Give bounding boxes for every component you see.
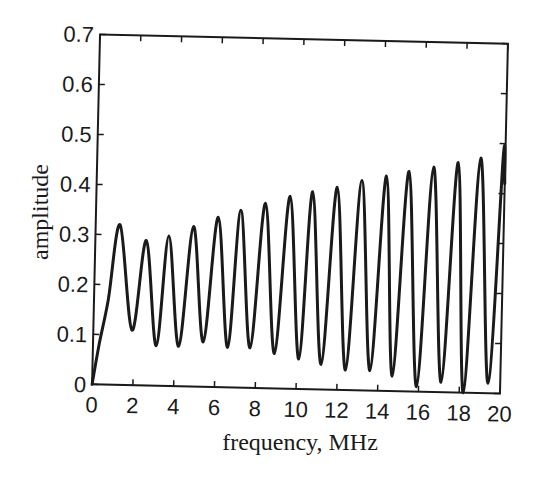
y-tick-label: 0.5	[61, 122, 92, 148]
x-tick-labels: 02468101214161820	[85, 392, 512, 427]
x-tick-label: 2	[126, 393, 139, 418]
x-tick-label: 8	[248, 396, 261, 421]
plot-group: 00.10.20.30.40.50.60.7 02468101214161820	[55, 22, 521, 427]
amplitude-frequency-chart: 00.10.20.30.40.50.60.7 02468101214161820…	[0, 0, 545, 488]
x-tick-label: 12	[324, 398, 349, 424]
x-tick-label: 6	[208, 395, 221, 420]
y-tick-labels: 00.10.20.30.40.50.60.7	[55, 22, 94, 398]
y-tick-label: 0.1	[56, 322, 87, 348]
x-axis-label: frequency, MHz	[222, 429, 378, 455]
y-axis-label: amplitude	[27, 164, 53, 260]
y-tick-label: 0.3	[59, 222, 90, 248]
x-tick-label: 4	[167, 394, 180, 419]
y-tick-label: 0.4	[60, 172, 91, 198]
y-tick-label: 0.2	[57, 272, 88, 298]
x-tick-label: 10	[283, 397, 308, 423]
x-tick-label: 18	[446, 400, 471, 426]
x-tick-label: 14	[365, 399, 390, 425]
x-tick-label: 16	[405, 399, 430, 425]
y-tick-label: 0	[74, 372, 87, 397]
y-tick-label: 0.7	[63, 22, 94, 48]
amplitude-curve	[92, 136, 506, 393]
x-tick-label: 0	[85, 392, 98, 417]
y-tick-label: 0.6	[62, 72, 93, 98]
x-tick-label: 20	[487, 401, 512, 427]
